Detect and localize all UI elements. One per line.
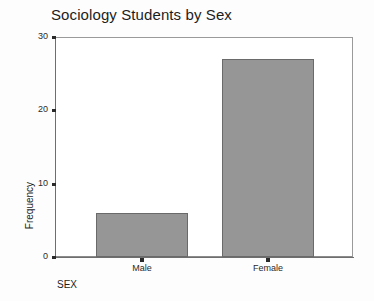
x-axis-line (55, 257, 354, 258)
bar-male (96, 213, 188, 257)
x-tick-label-female: Female (238, 263, 298, 273)
y-axis-line (55, 37, 56, 258)
y-tick-label-30: 30 (38, 31, 48, 41)
y-tick-mark-10 (52, 183, 56, 186)
y-tick-mark-30 (52, 36, 56, 39)
y-axis-title: Frequency (24, 166, 35, 246)
y-tick-mark-0 (52, 256, 56, 259)
y-tick-label-10: 10 (38, 178, 48, 188)
chart-title: Sociology Students by Sex (51, 6, 232, 23)
x-tick-label-male: Male (112, 263, 172, 273)
y-tick-label-20: 20 (38, 104, 48, 114)
y-tick-mark-20 (52, 109, 56, 112)
x-tick-mark-male (140, 258, 144, 262)
bar-chart: Sociology Students by Sex 30 20 10 0 Mal… (0, 0, 374, 301)
bar-female (222, 59, 314, 257)
x-tick-mark-female (266, 258, 270, 262)
y-tick-label-0: 0 (43, 251, 48, 261)
x-axis-title: SEX (57, 279, 77, 290)
